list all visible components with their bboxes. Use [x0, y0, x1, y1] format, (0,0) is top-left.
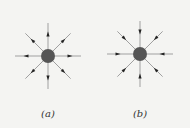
field-line	[145, 31, 163, 49]
arrowhead-icon	[138, 30, 141, 35]
caption-a: (a)	[33, 108, 63, 119]
arrowhead-icon	[46, 32, 49, 37]
point-charge	[133, 47, 147, 61]
arrowhead-icon	[68, 54, 73, 57]
field-line	[145, 59, 163, 77]
field-lines-diagram	[0, 0, 190, 128]
caption-b: (b)	[125, 108, 155, 119]
field-line	[117, 59, 135, 77]
field-line	[117, 31, 135, 49]
point-charge	[41, 49, 55, 63]
field-figure-a	[15, 23, 81, 89]
arrowhead-icon	[24, 54, 29, 57]
arrowhead-icon	[46, 76, 49, 81]
field-figure-b	[107, 21, 173, 87]
arrowhead-icon	[160, 52, 165, 55]
arrowhead-icon	[138, 74, 141, 79]
arrowhead-icon	[116, 52, 121, 55]
